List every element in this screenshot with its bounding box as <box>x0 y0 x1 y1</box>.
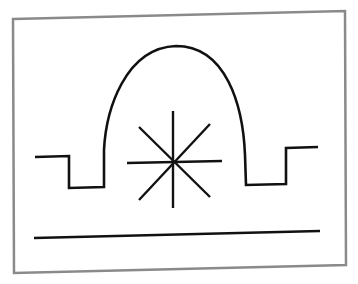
star-burst-icon <box>127 111 222 208</box>
dome-and-steps-outline <box>35 46 318 188</box>
ground-line <box>34 231 320 238</box>
diagram-canvas <box>0 0 358 284</box>
